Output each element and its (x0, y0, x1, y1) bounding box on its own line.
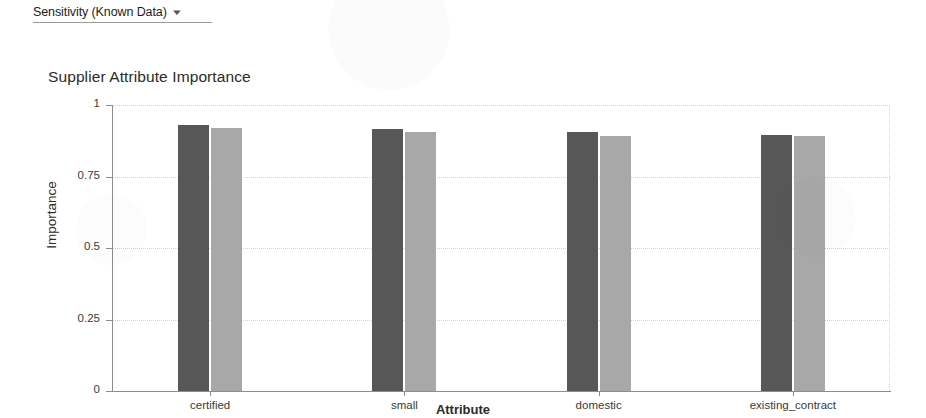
x-tick-mark (404, 391, 405, 396)
x-tick-mark (210, 391, 211, 396)
chart-title: Supplier Attribute Importance (48, 68, 251, 86)
sensitivity-dropdown-label: Sensitivity (Known Data) (33, 5, 167, 19)
y-tick-mark (106, 248, 112, 249)
plot-area: certifiedsmalldomesticexisting_contract (113, 105, 890, 391)
chevron-down-icon: ▼ (170, 9, 183, 17)
y-tick-label: 1 (0, 97, 100, 109)
top-toolbar: Sensitivity (Known Data) ▼ (0, 0, 926, 30)
bar-existing_contract-series-light[interactable] (794, 136, 825, 391)
sensitivity-dropdown[interactable]: Sensitivity (Known Data) ▼ (33, 1, 213, 22)
x-axis-line (112, 391, 891, 392)
chart-panel: Supplier Attribute Importance Importance… (0, 30, 926, 418)
y-tick-label: 0.75 (0, 169, 100, 181)
y-tick-label: 0.25 (0, 312, 100, 324)
y-tick-label: 0 (0, 383, 100, 395)
y-tick-mark (106, 177, 112, 178)
bar-group: existing_contract (113, 105, 890, 391)
y-tick-mark (106, 105, 112, 106)
y-tick-label: 0.5 (0, 240, 100, 252)
x-axis-title: Attribute (0, 402, 926, 417)
sensitivity-dropdown-underline (33, 22, 212, 23)
x-tick-mark (599, 391, 600, 396)
y-tick-mark (106, 320, 112, 321)
bar-existing_contract-series-dark[interactable] (761, 135, 792, 391)
y-axis-title: Importance (44, 181, 59, 249)
y-tick-mark (106, 391, 112, 392)
x-tick-mark (793, 391, 794, 396)
